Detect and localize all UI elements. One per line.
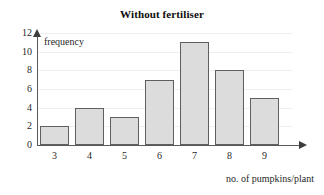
y-axis-title: frequency <box>44 36 84 47</box>
y-tick-label-0: 0 <box>12 140 32 150</box>
y-axis-line <box>37 36 38 146</box>
gridline-8 <box>37 70 292 71</box>
x-axis-arrow-icon <box>299 141 307 149</box>
x-axis-title: no. of pumpkins/plant <box>226 173 314 184</box>
y-tick-label-8: 8 <box>12 65 32 75</box>
bar-9 <box>250 98 279 145</box>
bar-5 <box>110 117 139 145</box>
y-tick-label-4: 4 <box>12 103 32 113</box>
x-tick-label-8: 8 <box>213 150 247 162</box>
y-tick-label-10: 10 <box>12 47 32 57</box>
bar-8 <box>215 70 244 145</box>
y-axis-arrow-icon <box>33 29 41 37</box>
x-tick-label-4: 4 <box>73 150 107 162</box>
x-tick-label-7: 7 <box>178 150 212 162</box>
y-tick-label-2: 2 <box>12 121 32 131</box>
x-tick-label-3: 3 <box>38 150 72 162</box>
bar-3 <box>40 126 69 145</box>
x-axis-line <box>37 145 301 146</box>
x-tick-label-6: 6 <box>143 150 177 162</box>
x-tick-label-5: 5 <box>108 150 142 162</box>
gridline-12 <box>37 33 292 34</box>
y-tick-label-6: 6 <box>12 84 32 94</box>
bar-7 <box>180 42 209 145</box>
bar-4 <box>75 108 104 145</box>
x-tick-label-9: 9 <box>248 150 282 162</box>
plot-area: 024681012 3456789 frequency no. of pumpk… <box>0 0 324 195</box>
bar-chart: Without fertiliser 024681012 3456789 fre… <box>0 0 324 195</box>
bar-6 <box>145 80 174 145</box>
y-tick-label-12: 12 <box>12 28 32 38</box>
gridline-10 <box>37 52 292 53</box>
